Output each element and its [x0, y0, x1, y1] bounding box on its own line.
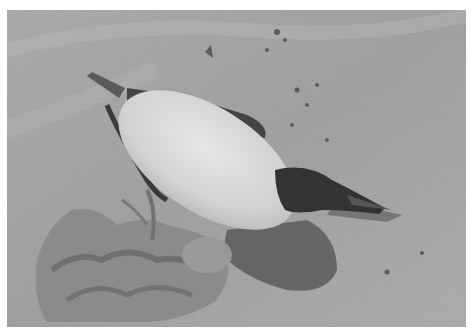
bird-on-sand-scene [7, 10, 466, 327]
photograph [7, 10, 466, 327]
